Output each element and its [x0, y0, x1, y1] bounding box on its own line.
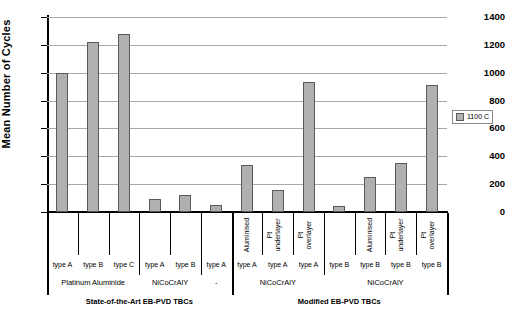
bar [118, 34, 130, 212]
x-axis-category-label: type B [385, 259, 416, 270]
label-table-rule [47, 251, 447, 252]
x-axis-supergroup-label: Modified EB-PVD TBCs [232, 296, 447, 308]
x-axis-category-label: type B [170, 259, 201, 270]
y-axis-tick-label: 1000 [465, 68, 505, 78]
label-table-separator [416, 213, 417, 255]
x-axis-group-label: Platinum Aluminide [47, 277, 139, 289]
bar [303, 82, 315, 212]
y-axis-title: Mean Number of Cycles [0, 4, 12, 164]
label-table-separator [293, 213, 294, 255]
x-axis-group-label: NiCoCrAlY [324, 277, 447, 289]
label-table-separator [447, 213, 449, 295]
label-table-separator [262, 213, 263, 255]
label-table-separator [232, 213, 234, 295]
label-table-separator [355, 213, 356, 255]
bar [149, 199, 161, 212]
x-axis-category-label: type A [262, 259, 293, 270]
bar [210, 205, 222, 212]
label-table-separator [109, 213, 110, 255]
bar [56, 73, 68, 212]
x-axis-group-label: NiCoCrAlY [232, 277, 324, 289]
x-axis-category-label: type C [109, 259, 140, 270]
gridline [47, 17, 447, 18]
y-axis-tick-label: 400 [465, 151, 505, 161]
x-axis-category-label: type B [416, 259, 447, 270]
x-axis-category-label: type B [78, 259, 109, 270]
label-table-separator [139, 213, 140, 275]
x-axis-category-label: type A [293, 259, 324, 270]
bar [395, 163, 407, 212]
x-axis-supergroup-label: State-of-the-Art EB-PVD TBCs [47, 296, 232, 308]
chart-container: Mean Number of Cycles 140012001000800600… [0, 0, 505, 319]
bar [426, 85, 438, 212]
bar [364, 177, 376, 212]
bar [241, 165, 253, 212]
gridline [47, 73, 447, 74]
x-axis-category-label: type A [201, 259, 232, 270]
label-table-rule [47, 270, 447, 271]
x-axis-category-label: type B [324, 259, 355, 270]
legend-label: 1100 C [467, 113, 489, 121]
x-axis-category-label: type B [355, 259, 386, 270]
label-table-separator [385, 213, 386, 255]
y-axis-tick-label: 0 [465, 207, 505, 217]
x-axis-category-label: type A [47, 259, 78, 270]
label-table-separator [324, 213, 325, 275]
gridline [47, 128, 447, 129]
label-table-separator [47, 213, 49, 295]
bar [333, 206, 345, 212]
plot-area [47, 17, 447, 212]
x-axis-group-label: NiCoCrAlY [139, 277, 201, 289]
bar [87, 42, 99, 212]
bar [179, 195, 191, 212]
y-axis-tick-label: 800 [465, 96, 505, 106]
chart-legend: 1100 C [452, 110, 493, 124]
gridline [47, 156, 447, 157]
x-axis-label-table: type Atype Btype Ctype Atype Btype Atype… [47, 213, 448, 313]
x-axis-group-label: - [201, 277, 232, 289]
y-axis-tick-label: 1400 [465, 12, 505, 22]
y-axis-tick-label: 1200 [465, 40, 505, 50]
gridline [47, 101, 447, 102]
label-table-separator [170, 213, 171, 255]
label-table-separator [201, 213, 202, 275]
bar [272, 190, 284, 212]
x-axis-category-label: type A [139, 259, 170, 270]
gridline [47, 45, 447, 46]
y-axis-tick-label: 200 [465, 179, 505, 189]
y-axis-tick-label: 600 [465, 123, 505, 133]
x-axis-category-label: type A [232, 259, 263, 270]
label-table-separator [78, 213, 79, 255]
legend-swatch-icon [456, 113, 464, 121]
